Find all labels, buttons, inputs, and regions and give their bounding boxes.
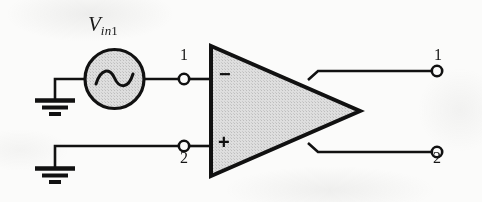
noninverting-input-sign: + <box>218 132 230 152</box>
wire-ground-lower-to-input-node-2 <box>55 146 184 168</box>
ground-lower <box>35 169 75 183</box>
wire-output-2 <box>308 143 437 152</box>
source-label-subscript-number: 1 <box>111 23 118 38</box>
output-terminal-2-label: 2 <box>433 150 441 166</box>
source-label-prefix: V <box>88 12 101 36</box>
source-label-subscript: in1 <box>101 23 118 38</box>
terminal-node-icon-input-1[interactable] <box>179 74 189 84</box>
terminal-node-icon-output-1[interactable] <box>432 66 442 76</box>
source-label-subscript-letters: in <box>101 23 112 38</box>
op-amp-triangle-icon <box>211 46 360 176</box>
ground-upper <box>35 101 75 115</box>
circuit-diagram-figure: Vin1 1 2 1 2 − + <box>0 0 482 202</box>
wire-ground-upper-to-source <box>55 79 85 100</box>
input-terminal-1-label: 1 <box>180 47 188 63</box>
op-amp-body <box>211 46 360 176</box>
ac-source-symbol <box>85 50 144 109</box>
input-terminal-2-label: 2 <box>180 150 188 166</box>
schematic-canvas <box>0 0 482 202</box>
inverting-input-sign: − <box>219 64 231 84</box>
output-terminal-1-label: 1 <box>434 47 442 63</box>
source-label: Vin1 <box>88 14 118 37</box>
wire-output-1 <box>308 71 437 80</box>
